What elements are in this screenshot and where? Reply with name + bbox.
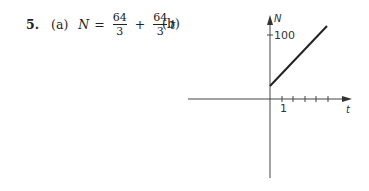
t-axis-arrow-icon [342,96,352,102]
line-graph: N 100 1 t [0,0,369,191]
t-axis-label: t [346,104,351,115]
t-tick-label-1: 1 [280,102,287,115]
n-tick-label-100: 100 [274,29,295,42]
n-axis-label: N [274,13,282,24]
n-axis-arrow-icon [267,15,273,25]
